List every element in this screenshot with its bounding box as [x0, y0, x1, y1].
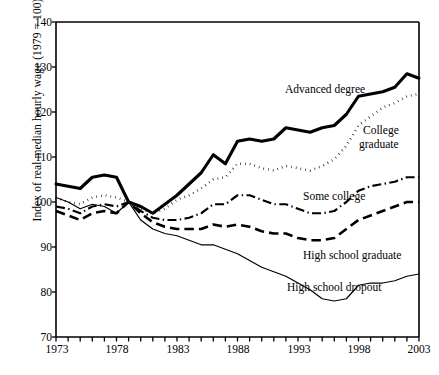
- series-label-college-graduate-line2: graduate: [359, 138, 399, 151]
- series-label-college-graduate-line1: College: [363, 124, 399, 137]
- series-label-advanced-degree: Advanced degree: [285, 83, 365, 96]
- plot-area: [0, 0, 439, 375]
- series-label-some-college: Some college: [303, 190, 365, 203]
- series-label-high-school-dropout: High school dropout: [287, 281, 382, 294]
- series-line-high-school-graduate: [56, 202, 419, 240]
- series-label-high-school-graduate: High school graduate: [303, 249, 401, 262]
- wage-index-chart: Index of real median hourly wage (1979 =…: [0, 0, 439, 375]
- data-series-layer: [56, 74, 419, 301]
